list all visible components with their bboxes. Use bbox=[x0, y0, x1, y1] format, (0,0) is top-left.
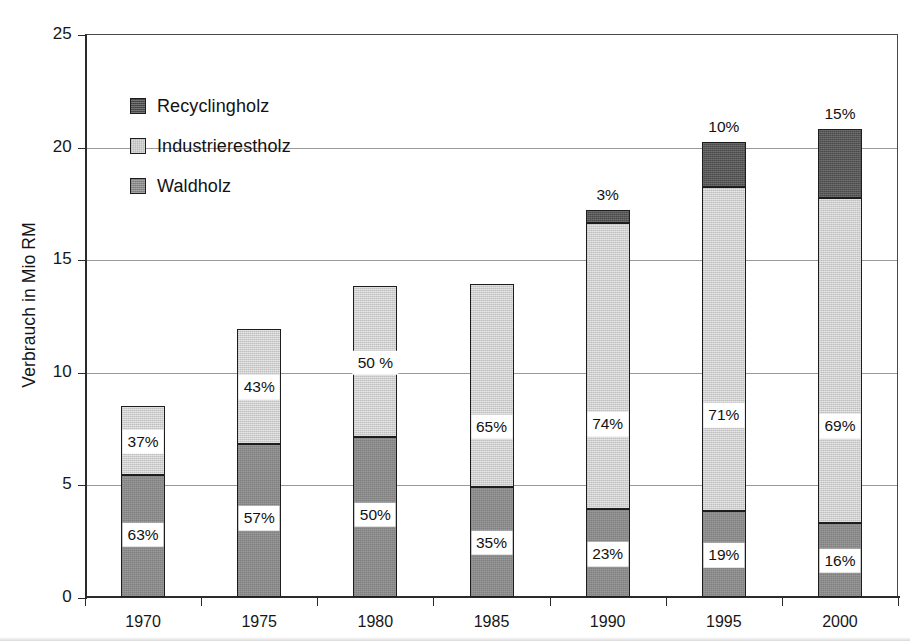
bar-segment-industrierestholz[interactable]: 37% bbox=[121, 406, 165, 476]
bar-segment-waldholz[interactable]: 19% bbox=[702, 511, 746, 597]
bar-group[interactable]: 19%71%10% bbox=[702, 34, 746, 597]
segment-percent-label: 74% bbox=[587, 412, 628, 437]
x-axis-tick-label: 2000 bbox=[822, 613, 858, 631]
y-axis-tick-label: 10 bbox=[53, 362, 72, 382]
bar-segment-industrierestholz[interactable]: 65% bbox=[470, 284, 514, 487]
x-axis-tick-mark bbox=[550, 597, 551, 606]
segment-percent-label: 23% bbox=[587, 542, 628, 567]
x-axis-tick-label: 1975 bbox=[241, 613, 277, 631]
bar-segment-waldholz[interactable]: 35% bbox=[470, 487, 514, 597]
chart-legend: RecyclingholzIndustrierestholzWaldholz bbox=[130, 86, 291, 206]
segment-percent-label: 19% bbox=[703, 543, 744, 568]
x-axis-tick-mark bbox=[201, 597, 202, 606]
bar-segment-industrierestholz[interactable]: 50 % bbox=[353, 286, 397, 437]
legend-item-label: Waldholz bbox=[157, 176, 231, 197]
segment-percent-label: 50% bbox=[355, 503, 396, 528]
segment-percent-label: 37% bbox=[123, 429, 164, 454]
y-axis-tick-label: 20 bbox=[53, 137, 72, 157]
y-axis-tick-label: 0 bbox=[62, 587, 72, 607]
segment-percent-label: 35% bbox=[471, 531, 512, 556]
y-axis-tick-label: 5 bbox=[62, 474, 72, 494]
bar-segment-industrierestholz[interactable]: 74% bbox=[586, 223, 630, 509]
waldholz-swatch bbox=[130, 178, 146, 194]
segment-percent-label: 50 % bbox=[353, 350, 398, 375]
x-axis-tick-mark bbox=[782, 597, 783, 606]
bar-top-percent-label: 3% bbox=[596, 186, 618, 204]
legend-item-label: Industrierestholz bbox=[157, 136, 291, 157]
scan-edge-artifact bbox=[0, 637, 910, 641]
segment-percent-label: 16% bbox=[819, 549, 860, 574]
chart-figure: Verbrauch in Mio RM 0510152025 63%37%57%… bbox=[0, 0, 910, 641]
segment-percent-label: 57% bbox=[239, 506, 280, 531]
y-axis-tick-label: 15 bbox=[53, 249, 72, 269]
x-axis-tick-label: 1970 bbox=[125, 613, 161, 631]
bar-segment-waldholz[interactable]: 23% bbox=[586, 509, 630, 597]
bar-top-percent-label: 15% bbox=[824, 105, 855, 123]
bar-segment-waldholz[interactable]: 16% bbox=[818, 523, 862, 597]
bar-segment-waldholz[interactable]: 50% bbox=[353, 437, 397, 597]
x-axis-tick-mark bbox=[433, 597, 434, 606]
segment-percent-label: 69% bbox=[819, 414, 860, 439]
y-axis-tick-labels: 0510152025 bbox=[0, 0, 72, 641]
x-axis: 1970197519801985199019952000 bbox=[85, 597, 900, 641]
legend-item-recyclingholz[interactable]: Recyclingholz bbox=[130, 86, 291, 126]
segment-percent-label: 63% bbox=[123, 523, 164, 548]
bar-segment-industrierestholz[interactable]: 69% bbox=[818, 198, 862, 522]
x-axis-tick-label: 1995 bbox=[706, 613, 742, 631]
x-axis-tick-mark bbox=[317, 597, 318, 606]
segment-percent-label: 43% bbox=[239, 375, 280, 400]
x-axis-tick-mark bbox=[85, 597, 86, 606]
bar-top-percent-label: 10% bbox=[708, 118, 739, 136]
bar-segment-waldholz[interactable]: 57% bbox=[237, 444, 281, 597]
x-axis-tick-label: 1990 bbox=[590, 613, 626, 631]
legend-item-industrierestholz[interactable]: Industrierestholz bbox=[130, 126, 291, 166]
industrierestholz-swatch bbox=[130, 138, 146, 154]
bar-group[interactable]: 16%69%15% bbox=[818, 34, 862, 597]
x-axis-tick-label: 1985 bbox=[474, 613, 510, 631]
bar-segment-recyclingholz[interactable] bbox=[702, 142, 746, 187]
legend-item-waldholz[interactable]: Waldholz bbox=[130, 166, 291, 206]
bar-group[interactable]: 50%50 % bbox=[353, 34, 397, 597]
x-axis-tick-label: 1980 bbox=[358, 613, 394, 631]
bar-segment-recyclingholz[interactable] bbox=[818, 129, 862, 199]
bar-group[interactable]: 23%74%3% bbox=[586, 34, 630, 597]
segment-percent-label: 71% bbox=[703, 403, 744, 428]
segment-percent-label: 65% bbox=[471, 415, 512, 440]
x-axis-tick-mark bbox=[898, 597, 899, 606]
bar-segment-waldholz[interactable]: 63% bbox=[121, 475, 165, 597]
legend-item-label: Recyclingholz bbox=[157, 96, 269, 117]
bar-segment-industrierestholz[interactable]: 43% bbox=[237, 329, 281, 444]
bar-segment-recyclingholz[interactable] bbox=[586, 210, 630, 224]
recyclingholz-swatch bbox=[130, 98, 146, 114]
bar-segment-industrierestholz[interactable]: 71% bbox=[702, 187, 746, 511]
bar-group[interactable]: 35%65% bbox=[470, 34, 514, 597]
x-axis-tick-mark bbox=[666, 597, 667, 606]
y-axis-tick-label: 25 bbox=[53, 24, 72, 44]
